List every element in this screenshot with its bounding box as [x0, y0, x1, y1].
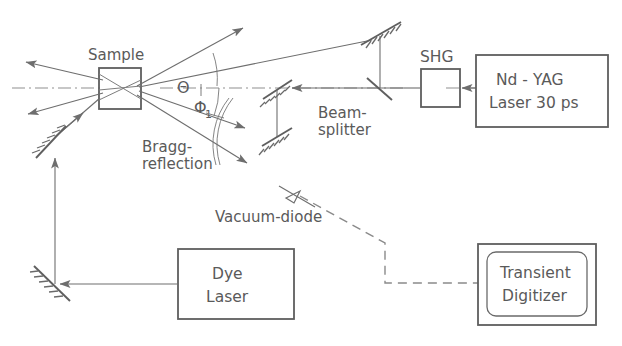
- sample-box: [99, 68, 141, 109]
- theta-angle-label: Θ: [177, 78, 190, 97]
- sample-label: Sample: [88, 46, 144, 64]
- mirror-lower: [259, 128, 292, 155]
- nd-yag-laser-box: [476, 55, 608, 127]
- transient-digitizer-box: [478, 244, 596, 325]
- shg-label: SHG: [420, 48, 454, 66]
- mirror-upper-right-pair: [259, 80, 292, 155]
- transient-digitizer-label-line2: Digitizer: [502, 287, 567, 305]
- signal-cable: [300, 196, 478, 283]
- nd-yag-label-line2: Laser 30 ps: [489, 94, 579, 112]
- vacuum-diode: [279, 186, 315, 207]
- bragg-label-line1: Bragg-: [142, 138, 192, 156]
- mirror-on-axis: [260, 80, 292, 107]
- diffracted-beams-up: [137, 28, 372, 87]
- beamsplitter-label-line2: splitter: [318, 121, 372, 139]
- bragg-label-line2: reflection: [142, 155, 213, 173]
- dye-laser-label-line2: Laser: [206, 288, 249, 306]
- angle-arcs: [213, 53, 219, 116]
- dye-laser-label-line1: Dye: [212, 265, 243, 283]
- dye-laser-box: [178, 249, 294, 319]
- dye-laser-beam-path: [55, 158, 178, 284]
- vacuum-diode-label: Vacuum-diode: [215, 208, 322, 226]
- mirror-left: [32, 125, 66, 158]
- mirror-top: [361, 22, 401, 48]
- nd-yag-label-line1: Nd - YAG: [496, 71, 564, 89]
- diagram-canvas: Sample Θ Φ 1 Bragg- reflection: [0, 0, 622, 346]
- bragg-arc: [213, 98, 233, 165]
- transient-digitizer-label-line1: Transient: [499, 264, 571, 282]
- optical-setup-diagram: Sample Θ Φ 1 Bragg- reflection: [0, 0, 622, 346]
- beamsplitter-label-line1: Beam-: [318, 104, 367, 122]
